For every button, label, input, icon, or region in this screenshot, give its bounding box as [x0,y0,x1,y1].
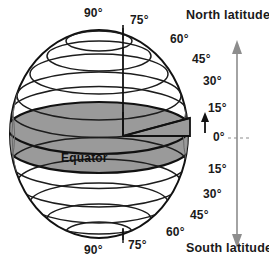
label-north-15: 15° [208,101,227,115]
double-headed-latitude-arrow [228,40,252,248]
label-north-30: 30° [203,74,222,88]
globe-illustration [0,0,269,263]
label-south-90: 90° [84,243,103,257]
north-latitude-label: North latitude [186,8,269,22]
label-north-60: 60° [170,32,189,46]
label-south-60: 60° [166,225,185,239]
equator-label: Equator [61,151,108,165]
label-south-75: 75° [128,238,147,252]
measurement-direction-arrow [201,112,209,133]
label-north-90: 90° [84,6,103,20]
south-latitude-label: South latitude [186,241,269,255]
label-south-45: 45° [190,208,209,222]
label-north-45: 45° [192,52,211,66]
label-south-15: 15° [208,162,227,176]
label-zero: 0° [213,130,225,144]
latitude-globe-diagram: 90° 75° 60° 45° 30° 15° 0° 15° 30° 45° 6… [0,0,269,263]
label-south-30: 30° [203,187,222,201]
label-north-75: 75° [130,13,149,27]
